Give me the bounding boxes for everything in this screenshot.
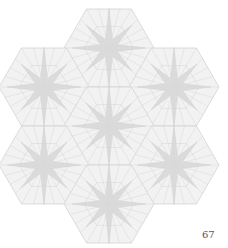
page-number: 67	[202, 229, 215, 240]
hexagon-star-tessellation	[0, 0, 228, 248]
